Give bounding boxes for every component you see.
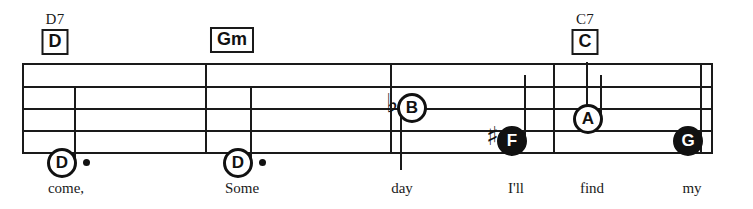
chord-box-label: C — [572, 29, 599, 55]
lyric-my: my — [682, 180, 701, 197]
notehead-b-2[interactable]: B — [397, 93, 427, 123]
note-stem-up-d — [74, 86, 76, 163]
staff-line-5 — [22, 152, 712, 154]
lyric-ill: I'll — [508, 180, 524, 197]
augmentation-dot-0 — [83, 159, 90, 166]
barline-1 — [205, 63, 207, 154]
lyric-day: day — [391, 180, 413, 197]
chord-symbol-c[interactable]: C7C — [572, 12, 599, 55]
chord-alt-label: C7 — [576, 12, 594, 27]
chord-box-label: D — [42, 29, 69, 55]
staff-line-1 — [22, 63, 712, 65]
lyric-some: Some — [225, 180, 259, 197]
notehead-d-0[interactable]: D — [47, 148, 77, 178]
staff-left-edge — [22, 63, 24, 154]
note-stem-up-f — [524, 75, 526, 141]
lyric-come: come, — [48, 180, 84, 197]
music-notation-sheet: D7DGmC7CDcome,DSome♭Bday♯FI'llAfindGmy — [0, 0, 753, 209]
note-stem-up-d — [250, 86, 252, 163]
barline-5 — [711, 63, 713, 154]
chord-symbol-d[interactable]: D7D — [42, 12, 69, 55]
staff-line-3 — [22, 108, 712, 110]
augmentation-dot-1 — [259, 159, 266, 166]
notehead-f-3[interactable]: F — [497, 126, 527, 156]
flat-icon-b: ♭ — [386, 90, 398, 116]
barline-3 — [553, 63, 555, 154]
chord-symbol-gm[interactable]: Gm — [210, 27, 254, 53]
notehead-g-5[interactable]: G — [673, 126, 703, 156]
staff-line-2 — [22, 86, 712, 88]
notehead-d-1[interactable]: D — [223, 148, 253, 178]
notehead-a-4[interactable]: A — [573, 104, 603, 134]
lyric-find: find — [580, 180, 604, 197]
staff-line-4 — [22, 130, 712, 132]
chord-box-label: Gm — [210, 27, 254, 53]
chord-alt-label: D7 — [46, 12, 65, 27]
